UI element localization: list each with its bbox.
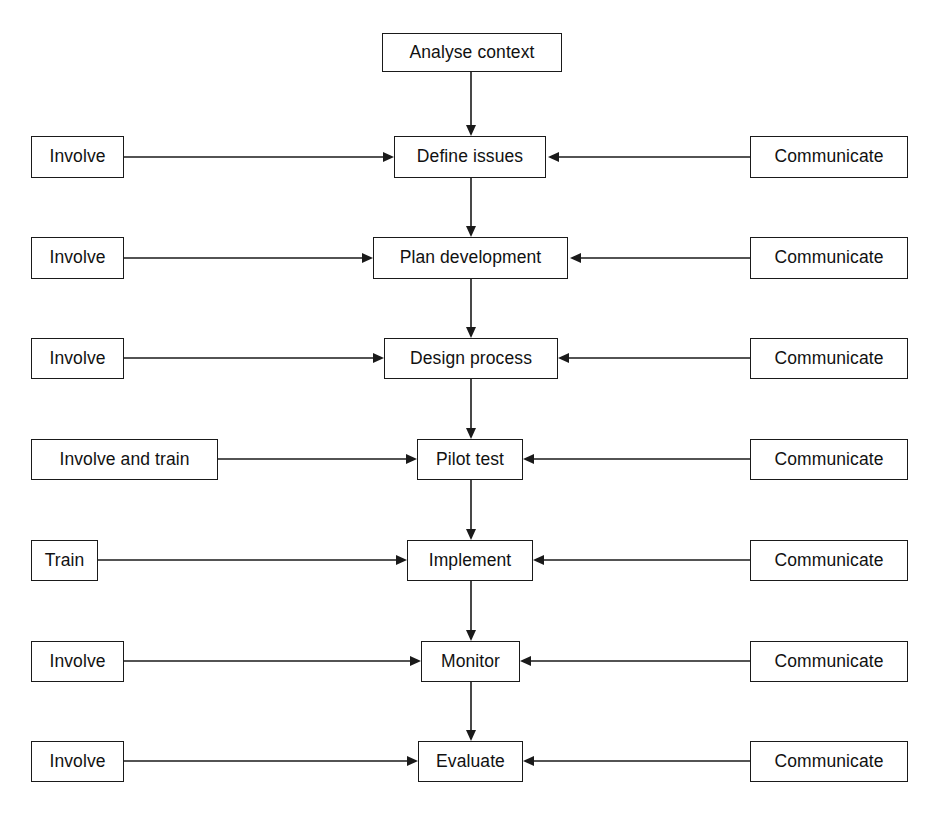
node-train-implement[interactable]: Train: [31, 540, 98, 581]
node-label: Plan development: [400, 249, 542, 267]
node-communicate-plan-development[interactable]: Communicate: [750, 237, 908, 279]
arrow-communicate-to-plan: [570, 253, 750, 263]
arrow-plan-to-design: [466, 279, 476, 338]
arrow-communicate-to-implement: [533, 555, 750, 565]
arrow-pilot-to-implement: [466, 480, 476, 540]
node-label: Communicate: [774, 148, 883, 166]
arrow-communicate-to-evaluate: [523, 756, 750, 766]
node-implement[interactable]: Implement: [407, 540, 533, 581]
node-label: Communicate: [774, 451, 883, 469]
node-analyse-context[interactable]: Analyse context: [382, 33, 562, 72]
node-communicate-pilot-test[interactable]: Communicate: [750, 439, 908, 480]
node-label: Monitor: [441, 653, 500, 671]
node-communicate-monitor[interactable]: Communicate: [750, 641, 908, 682]
node-label: Communicate: [774, 552, 883, 570]
node-define-issues[interactable]: Define issues: [394, 136, 546, 178]
arrow-communicate-to-define: [548, 152, 750, 162]
connector-layer: [0, 0, 939, 814]
node-involve-and-train-pilot-test[interactable]: Involve and train: [31, 439, 218, 480]
node-label: Involve: [49, 350, 105, 368]
node-evaluate[interactable]: Evaluate: [418, 741, 523, 782]
arrow-analyse-to-define: [466, 72, 476, 136]
arrow-define-to-plan: [466, 178, 476, 237]
node-design-process[interactable]: Design process: [384, 338, 558, 379]
node-plan-development[interactable]: Plan development: [373, 237, 568, 279]
node-label: Involve: [49, 653, 105, 671]
arrow-involve-to-plan: [124, 253, 373, 263]
node-label: Involve and train: [59, 451, 189, 469]
node-communicate-design-process[interactable]: Communicate: [750, 338, 908, 379]
node-label: Involve: [49, 148, 105, 166]
node-label: Communicate: [774, 753, 883, 771]
node-label: Pilot test: [436, 451, 504, 469]
node-label: Evaluate: [436, 753, 505, 771]
arrow-communicate-to-pilot: [523, 454, 750, 464]
node-label: Involve: [49, 249, 105, 267]
arrow-involve-to-design: [124, 353, 384, 363]
arrow-design-to-pilot: [466, 379, 476, 439]
arrow-monitor-to-evaluate: [466, 682, 476, 741]
node-monitor[interactable]: Monitor: [421, 641, 520, 682]
flowchart-canvas: Analyse context Define issues Plan devel…: [0, 0, 939, 814]
node-label: Define issues: [417, 148, 523, 166]
node-communicate-evaluate[interactable]: Communicate: [750, 741, 908, 782]
node-label: Analyse context: [409, 44, 534, 62]
arrow-involve-to-evaluate: [124, 756, 418, 766]
node-label: Design process: [410, 350, 532, 368]
node-involve-monitor[interactable]: Involve: [31, 641, 124, 682]
node-label: Train: [45, 552, 85, 570]
node-involve-evaluate[interactable]: Involve: [31, 741, 124, 782]
arrow-train-to-implement: [98, 555, 407, 565]
node-label: Communicate: [774, 350, 883, 368]
node-label: Implement: [429, 552, 512, 570]
node-communicate-implement[interactable]: Communicate: [750, 540, 908, 581]
arrow-involve-to-monitor: [124, 656, 421, 666]
node-communicate-define-issues[interactable]: Communicate: [750, 136, 908, 178]
node-involve-plan-development[interactable]: Involve: [31, 237, 124, 279]
node-pilot-test[interactable]: Pilot test: [417, 439, 523, 480]
node-involve-design-process[interactable]: Involve: [31, 338, 124, 379]
node-involve-define-issues[interactable]: Involve: [31, 136, 124, 178]
arrow-communicate-to-monitor: [520, 656, 750, 666]
arrow-implement-to-monitor: [466, 581, 476, 641]
arrow-communicate-to-design: [558, 353, 750, 363]
node-label: Communicate: [774, 249, 883, 267]
arrow-involve-and-train-to-pilot: [218, 454, 417, 464]
node-label: Involve: [49, 753, 105, 771]
arrow-involve-to-define: [124, 152, 394, 162]
node-label: Communicate: [774, 653, 883, 671]
